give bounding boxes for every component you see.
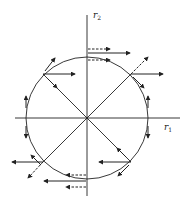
arrow-diag-nw-in bbox=[48, 79, 57, 88]
label-r2: r2 bbox=[93, 10, 101, 21]
arrow-ne-dashed bbox=[131, 57, 148, 74]
arrow-ne-tangent bbox=[133, 77, 144, 88]
label-r1: r1 bbox=[164, 122, 172, 133]
arrow-diag-se-in bbox=[117, 148, 126, 157]
diagram-canvas: r2 r1 bbox=[0, 0, 188, 203]
